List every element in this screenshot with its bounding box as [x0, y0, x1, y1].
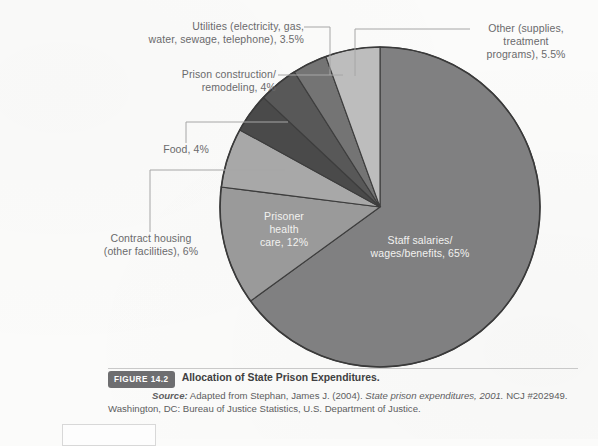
page-corner-artifact — [62, 424, 156, 446]
label-contract-housing-line1: Contract housing — [111, 232, 192, 244]
label-other-line2: treatment — [503, 35, 548, 47]
label-staff-salaries-line2: wages/benefits, 65% — [371, 247, 470, 259]
label-staff-salaries-line1: Staff salaries/ — [388, 234, 453, 246]
label-staff-salaries: Staff salaries/wages/benefits, 65% — [352, 234, 488, 260]
label-other-line1: Other (supplies, — [488, 22, 564, 34]
label-utilities-line1: Utilities (electricity, gas, — [192, 20, 304, 32]
source-label: Source: — [152, 390, 188, 401]
label-prisoner-health-care: Prisonerhealthcare, 12% — [238, 210, 330, 249]
caption-title-row: FIGURE 14.2 Allocation of State Prison E… — [108, 371, 578, 388]
label-prisoner-health-care-line2: health — [269, 223, 298, 235]
figure-title: Allocation of State Prison Expenditures. — [182, 371, 380, 384]
label-contract-housing-line2: (other facilities), 6% — [104, 245, 198, 257]
label-prisoner-health-care-line3: care, 12% — [260, 236, 308, 248]
label-prison-construction: Prison construction/remodeling, 4% — [118, 68, 276, 94]
pie-slices — [220, 47, 540, 367]
label-prisoner-health-care-line1: Prisoner — [264, 210, 304, 222]
figure-source-line-1: Source: Adapted from Stephan, James J. (… — [152, 389, 578, 402]
label-utilities: Utilities (electricity, gas,water, sewag… — [110, 20, 304, 46]
label-prison-construction-line2: remodeling, 4% — [202, 81, 276, 93]
label-other: Other (supplies,treatmentprograms), 5.5% — [470, 22, 582, 61]
label-prison-construction-line1: Prison construction/ — [182, 68, 276, 80]
figure-number-badge: FIGURE 14.2 — [108, 371, 175, 388]
label-utilities-line2: water, sewage, telephone), 3.5% — [149, 33, 304, 45]
label-contract-housing: Contract housing(other facilities), 6% — [78, 232, 224, 258]
source-title-italic: State prison expenditures, 2001. — [365, 390, 503, 401]
label-food-line1: Food, 4% — [163, 143, 209, 155]
caption-divider-rule — [108, 368, 578, 369]
label-other-line3: programs), 5.5% — [486, 48, 565, 60]
source-text-a: Adapted from Stephan, James J. (2004). — [188, 390, 366, 401]
figure-source-line-2: Washington, DC: Bureau of Justice Statis… — [108, 402, 578, 415]
label-food: Food, 4% — [140, 143, 232, 156]
source-text-b: NCJ #202949. — [503, 390, 567, 401]
figure-caption: FIGURE 14.2 Allocation of State Prison E… — [108, 371, 578, 416]
